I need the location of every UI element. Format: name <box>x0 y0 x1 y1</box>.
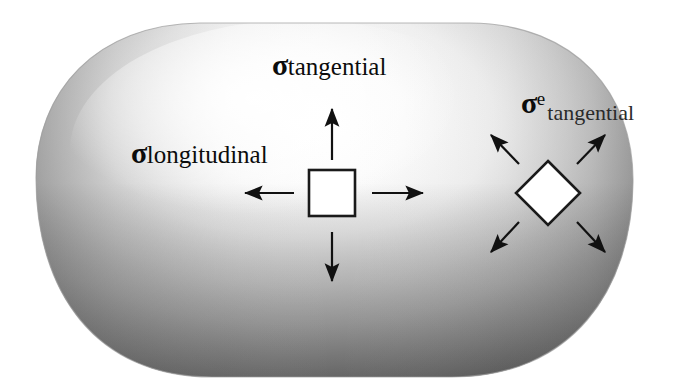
sigma-tangential-subscript: tangential <box>288 53 387 80</box>
square-element-shape <box>309 170 355 216</box>
label-sigma-longitudinal: σlongitudinal <box>131 138 268 168</box>
stress-element-figure: σtangential σlongitudinal σetangential <box>0 0 691 391</box>
sigma-e-superscript: e <box>537 88 545 109</box>
sigma-symbol: σ <box>272 48 288 81</box>
label-sigma-tangential: σtangential <box>272 50 386 80</box>
label-sigma-e-tangential: σetangential <box>521 88 632 118</box>
sigma-symbol: σ <box>131 136 147 169</box>
sigma-longitudinal-subscript: longitudinal <box>147 141 268 168</box>
sigma-e-tangential-subscript: tangential <box>547 100 634 125</box>
sigma-symbol: σ <box>521 86 537 119</box>
